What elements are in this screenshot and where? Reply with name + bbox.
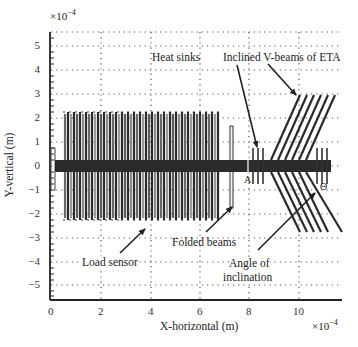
- y-axis-label: Y-vertical (m): [3, 133, 15, 198]
- load-sensor-arrow: [120, 229, 145, 253]
- v-beams-arrow: [268, 64, 296, 95]
- heat-sinks-label: Heat sinks: [152, 51, 200, 63]
- load-sensor-label: Load sensor: [82, 256, 138, 268]
- x-tick: 0: [48, 305, 54, 317]
- x-tick: 6: [197, 305, 203, 317]
- x-tick: 2: [98, 305, 104, 317]
- y-tick: 5: [35, 39, 41, 51]
- x-tick: 10: [293, 305, 304, 317]
- folded-beams-label: Folded beams: [172, 236, 236, 248]
- angle-label-line2: inclination: [223, 271, 272, 283]
- heat-sinks-arrow: [237, 65, 257, 147]
- y-tick: 3: [35, 87, 41, 99]
- y-tick: 0: [35, 159, 41, 171]
- y-tick: 2: [35, 111, 41, 123]
- y-tick: 4: [35, 63, 41, 75]
- y-tick: −4: [28, 255, 40, 267]
- x-axis-label: X-horizontal (m): [160, 320, 238, 332]
- theta-label: Θ: [320, 181, 327, 192]
- y-tick: −2: [28, 207, 40, 219]
- v-beams-label: Inclined V-beams of ETA: [223, 51, 341, 63]
- y-tick: −1: [28, 183, 40, 195]
- x-axis-multiplier: ×10−4: [312, 318, 338, 332]
- y-tick: −3: [28, 231, 40, 243]
- angle-label-line1: Angle of: [229, 257, 270, 269]
- shuttle-bar: [55, 160, 331, 172]
- y-tick: −5: [28, 278, 40, 290]
- y-axis-multiplier: ×10−4: [50, 8, 76, 22]
- point-a-label: A: [244, 174, 251, 185]
- x-tick: 4: [148, 305, 154, 317]
- y-tick: 1: [35, 135, 41, 147]
- x-tick: 8: [246, 305, 252, 317]
